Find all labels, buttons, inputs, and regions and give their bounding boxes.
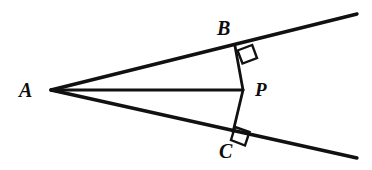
- vertex-label-b: B: [217, 18, 230, 38]
- right-angle-mark-at-C: [231, 127, 250, 146]
- geometry-canvas: [0, 0, 372, 170]
- ray-AC-lower: [51, 90, 357, 158]
- vertex-label-p: P: [255, 80, 267, 99]
- vertex-label-c: C: [219, 141, 232, 161]
- ray-AB-upper: [51, 14, 357, 90]
- geometry-figure: A B P C: [0, 0, 372, 170]
- vertex-label-a: A: [19, 80, 32, 100]
- right-angle-mark-at-B: [238, 45, 258, 64]
